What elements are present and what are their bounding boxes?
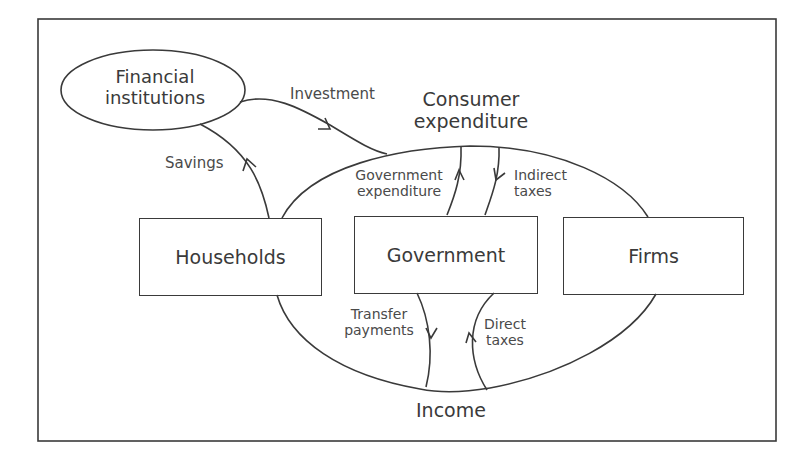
direct-taxes-label: Direct taxes bbox=[484, 316, 526, 348]
financial-institutions-label: Financial institutions bbox=[103, 67, 207, 108]
investment-flow bbox=[240, 99, 387, 154]
direct-taxes-line1: Direct bbox=[484, 316, 526, 332]
direct-taxes-line2: taxes bbox=[484, 332, 526, 348]
households-node: Households bbox=[139, 218, 322, 296]
direct-taxes-arrow-icon bbox=[466, 333, 476, 343]
government-node: Government bbox=[354, 216, 538, 294]
government-expenditure-flow bbox=[447, 147, 461, 215]
firms-label: Firms bbox=[628, 245, 679, 267]
consumer-expenditure-arc bbox=[282, 146, 648, 218]
financial-institutions-line1: Financial bbox=[103, 67, 207, 88]
indirect-taxes-label: Indirect taxes bbox=[514, 167, 567, 199]
government-label: Government bbox=[387, 244, 506, 266]
government-expenditure-label: Government expenditure bbox=[352, 167, 446, 199]
government-expenditure-line2: expenditure bbox=[352, 183, 446, 199]
income-label: Income bbox=[416, 400, 486, 422]
transfer-payments-flow bbox=[417, 293, 430, 387]
government-expenditure-line1: Government bbox=[352, 167, 446, 183]
indirect-taxes-arrow-icon bbox=[494, 168, 505, 180]
transfer-payments-line2: payments bbox=[342, 322, 416, 338]
indirect-taxes-flow bbox=[485, 147, 499, 215]
consumer-expenditure-line2: expenditure bbox=[410, 111, 532, 133]
households-label: Households bbox=[175, 246, 285, 268]
savings-label: Savings bbox=[165, 155, 224, 172]
firms-node: Firms bbox=[563, 217, 744, 295]
consumer-expenditure-line1: Consumer bbox=[410, 89, 532, 111]
indirect-taxes-line2: taxes bbox=[514, 183, 567, 199]
consumer-expenditure-label: Consumer expenditure bbox=[410, 89, 532, 133]
indirect-taxes-line1: Indirect bbox=[514, 167, 567, 183]
financial-institutions-line2: institutions bbox=[103, 88, 207, 109]
investment-label: Investment bbox=[290, 86, 375, 103]
transfer-payments-label: Transfer payments bbox=[342, 306, 416, 338]
transfer-payments-line1: Transfer bbox=[342, 306, 416, 322]
